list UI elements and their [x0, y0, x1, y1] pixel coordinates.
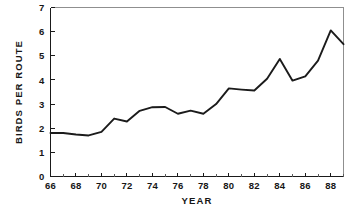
- x-tick-label: 88: [325, 180, 336, 191]
- x-tick-label: 78: [198, 180, 209, 191]
- y-tick-label: 1: [39, 147, 45, 158]
- chart-plot-area: 01234567666870727476788082848688YEARBIRD…: [0, 0, 362, 214]
- y-tick-label: 4: [39, 75, 45, 86]
- data-series-line: [51, 30, 344, 135]
- birds-per-route-trend-line: [51, 30, 344, 135]
- x-tick-label: 82: [249, 180, 260, 191]
- plot-frame: [51, 8, 344, 177]
- y-tick-label: 0: [39, 171, 44, 182]
- bird-survey-line-chart: 01234567666870727476788082848688YEARBIRD…: [0, 0, 362, 214]
- y-tick-label: 6: [39, 26, 44, 37]
- axis-ticks: [51, 8, 344, 177]
- x-tick-label: 72: [121, 180, 132, 191]
- x-tick-label: 68: [70, 180, 81, 191]
- y-tick-label: 3: [39, 99, 44, 110]
- plot-frame-top-right: [51, 8, 344, 177]
- x-tick-label: 66: [45, 180, 56, 191]
- y-tick-label: 5: [39, 50, 45, 61]
- axis-tick-labels: 01234567666870727476788082848688YEARBIRD…: [13, 2, 336, 205]
- y-axis-title: BIRDS PER ROUTE: [13, 40, 24, 144]
- x-tick-label: 86: [300, 180, 311, 191]
- x-tick-label: 74: [147, 180, 158, 191]
- y-tick-label: 7: [39, 2, 44, 13]
- x-tick-label: 76: [172, 180, 183, 191]
- x-axis-title: YEAR: [182, 195, 213, 206]
- x-tick-label: 84: [274, 180, 285, 191]
- x-tick-label: 70: [96, 180, 107, 191]
- x-tick-label: 80: [223, 180, 234, 191]
- y-tick-label: 2: [39, 123, 44, 134]
